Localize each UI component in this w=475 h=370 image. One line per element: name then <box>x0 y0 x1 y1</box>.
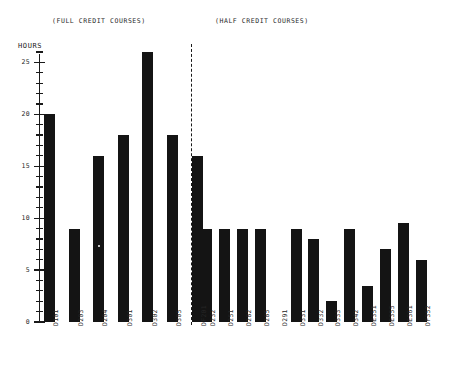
x-tick-label: D232 <box>209 309 217 326</box>
y-tick-minor <box>36 124 43 125</box>
y-tick-label: 5 <box>14 266 30 274</box>
y-tick-minor <box>36 301 43 302</box>
y-tick-label: 20 <box>14 110 30 118</box>
bar <box>44 114 55 322</box>
y-tick-minor <box>36 51 43 52</box>
x-tick-label: DE355 <box>388 305 396 326</box>
x-tick-label: DF352 <box>424 305 432 326</box>
y-tick-minor <box>36 280 43 281</box>
x-tick-label: D251 <box>227 309 235 326</box>
y-tick-minor <box>36 197 43 198</box>
x-tick-label: D332 <box>317 309 325 326</box>
y-tick-minor <box>36 176 43 177</box>
y-tick-minor <box>36 155 43 156</box>
x-tick-label: D301 <box>126 309 134 326</box>
x-tick-label: D305 <box>175 309 183 326</box>
section-divider <box>191 44 192 325</box>
bar <box>118 135 129 322</box>
bar <box>93 156 104 322</box>
x-tick-label: D203 <box>77 309 85 326</box>
bar <box>69 229 80 322</box>
y-tick-minor <box>36 83 43 84</box>
y-tick-minor <box>36 72 43 73</box>
y-tick-minor <box>36 103 43 104</box>
x-tick-label: D331 <box>299 309 307 326</box>
x-tick-label: D302 <box>151 309 159 326</box>
x-tick-label: D101 <box>52 309 60 326</box>
y-tick-minor <box>36 145 43 146</box>
bar <box>237 229 248 322</box>
y-tick-label: 10 <box>14 214 30 222</box>
y-tick-minor <box>36 186 43 187</box>
y-tick-minor <box>36 311 43 312</box>
y-tick-label: 25 <box>14 58 30 66</box>
plot-area: 0510152025 D101D203D204D301D302D305DF201… <box>0 0 475 370</box>
y-tick-minor <box>36 228 43 229</box>
x-tick-label: DF201 <box>200 305 208 326</box>
x-tick-label: D333 <box>334 309 342 326</box>
x-tick-label: DE361 <box>406 305 414 326</box>
x-tick-label: D204 <box>101 309 109 326</box>
x-tick-label: D285 <box>263 309 271 326</box>
x-tick-label: D291 <box>281 309 289 326</box>
bar <box>167 135 178 322</box>
bar <box>291 229 302 322</box>
x-tick-label: D342 <box>352 309 360 326</box>
y-tick-major <box>34 62 45 63</box>
y-tick-minor <box>36 249 43 250</box>
bar <box>142 52 153 322</box>
x-tick-label: D282 <box>245 309 253 326</box>
y-tick-label: 0 <box>14 318 30 326</box>
y-tick-minor <box>36 259 43 260</box>
y-tick-minor <box>36 207 43 208</box>
y-tick-minor <box>36 93 43 94</box>
y-axis-line <box>39 54 40 322</box>
y-tick-minor <box>36 134 43 135</box>
bar-chart: (FULL CREDIT COURSES) (HALF CREDIT COURS… <box>0 0 475 370</box>
bar <box>344 229 355 322</box>
y-tick-minor <box>36 290 43 291</box>
y-tick-minor <box>36 238 43 239</box>
x-tick-label: DE351 <box>370 305 378 326</box>
y-tick-label: 15 <box>14 162 30 170</box>
bar <box>255 229 266 322</box>
bar <box>219 229 230 322</box>
